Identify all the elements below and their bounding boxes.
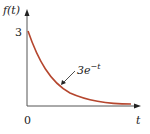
annotation-leader xyxy=(63,71,75,83)
x-axis-arrow-icon xyxy=(134,104,141,109)
y-axis-label: f(t) xyxy=(3,4,20,17)
annotation-base: 3e xyxy=(77,64,91,77)
chart-canvas xyxy=(0,0,150,134)
y-axis-arrow-icon xyxy=(25,9,30,16)
x-axis-label: t xyxy=(136,114,140,127)
y-tick-3: 3 xyxy=(15,26,22,39)
x-tick-0: 0 xyxy=(24,114,31,127)
curve-annotation: 3e−t xyxy=(77,62,100,77)
annotation-exponent: −t xyxy=(91,62,101,71)
